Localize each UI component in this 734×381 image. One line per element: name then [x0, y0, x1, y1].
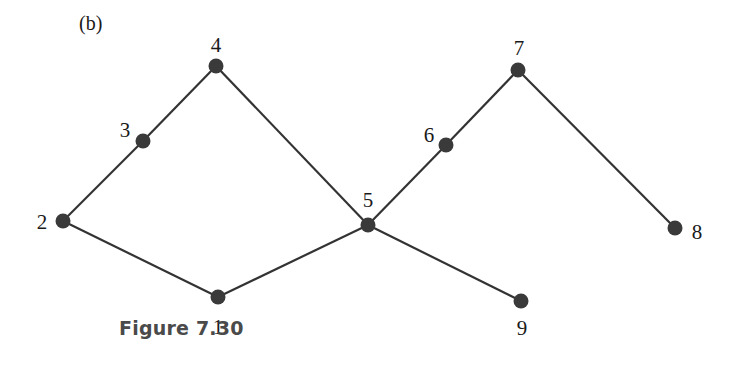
- node-1: [211, 290, 226, 305]
- nodes: [56, 59, 683, 309]
- edges: [63, 66, 675, 301]
- edge-7-8: [518, 70, 675, 228]
- graph-diagram: (b) 123456789: [0, 0, 734, 381]
- node-label-5: 5: [363, 188, 374, 212]
- node-label-3: 3: [120, 118, 131, 142]
- edge-5-6: [368, 145, 446, 225]
- node-label-4: 4: [211, 33, 222, 57]
- node-5: [361, 218, 376, 233]
- node-label-2: 2: [37, 210, 48, 234]
- panel-label: (b): [79, 12, 102, 35]
- node-7: [511, 63, 526, 78]
- node-labels: 123456789: [37, 33, 703, 340]
- node-label-6: 6: [424, 123, 435, 147]
- node-9: [514, 294, 529, 309]
- node-3: [136, 134, 151, 149]
- node-8: [668, 221, 683, 236]
- node-label-7: 7: [514, 36, 525, 60]
- edge-2-3: [63, 141, 143, 221]
- edge-6-7: [446, 70, 518, 145]
- edge-5-9: [368, 225, 521, 301]
- node-6: [439, 138, 454, 153]
- edge-1-2: [63, 221, 218, 297]
- node-2: [56, 214, 71, 229]
- edge-5-1: [218, 225, 368, 297]
- node-label-9: 9: [517, 316, 528, 340]
- figure-caption: Figure 7.30: [119, 317, 244, 339]
- edge-4-5: [216, 66, 368, 225]
- node-4: [209, 59, 224, 74]
- node-label-8: 8: [692, 220, 703, 244]
- edge-3-4: [143, 66, 216, 141]
